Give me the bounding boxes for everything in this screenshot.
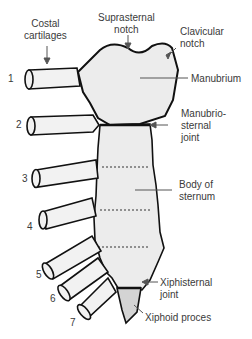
cartilage-4 [42,198,96,229]
rib-number-6: 6 [50,293,56,305]
label-body-of-sternum: Body of sternum [179,179,215,203]
label-xiphisternal-joint: Xiphisternal joint [160,277,212,301]
label-manubrium: Manubrium [191,73,241,85]
cartilage-2 [31,115,99,135]
sternum-diagram [0,0,252,339]
label-suprasternal-notch: Suprasternal notch [98,12,155,36]
rib-number-3: 3 [22,173,28,185]
rib-number-1: 1 [8,73,14,85]
rib-number-7: 7 [70,317,76,329]
cartilage-3 [36,160,98,187]
label-manubriosternal-joint: Manubrio- sternal joint [181,108,226,144]
label-costal-cartilages: Costal cartilages [24,18,67,42]
body-of-sternum-shape [94,124,164,290]
label-clavicular-notch: Clavicular notch [180,26,224,50]
manubrium-shape [78,43,178,125]
rib-number-4: 4 [27,221,33,233]
cartilage-1 [29,68,80,89]
rib-number-5: 5 [36,269,42,281]
label-xiphoid-process: Xiphoid proces [145,312,211,324]
xiphoid-process-shape [117,288,141,323]
rib-number-2: 2 [16,119,22,131]
